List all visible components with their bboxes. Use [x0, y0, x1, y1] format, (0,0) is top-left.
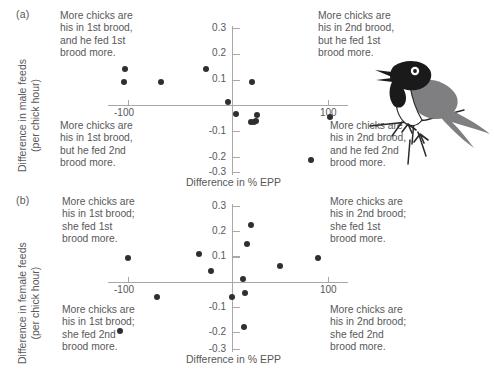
data-point [117, 328, 123, 334]
panel-a-ytick-label-0.1: 0.1 [196, 73, 226, 84]
panel-b-axes [0, 186, 494, 370]
data-point [121, 79, 127, 85]
panel-a-ytick-label-0.3: 0.3 [196, 22, 226, 33]
swallow-eye-pupil [413, 69, 417, 73]
data-point [154, 294, 160, 300]
data-point [315, 255, 321, 261]
data-point [158, 79, 164, 85]
data-point [225, 99, 231, 105]
swallow-beak-lower [376, 78, 393, 82]
panel-b-xtick-label--100: -100 [114, 284, 134, 295]
panel-a-ytick-label-0.2: 0.2 [196, 47, 226, 58]
data-point [240, 276, 246, 282]
barn-swallow-illustration [368, 52, 492, 176]
data-point [254, 112, 260, 118]
panel-b-xtick-label-100: 100 [320, 284, 337, 295]
data-point [327, 114, 333, 120]
swallow-beak-upper [375, 70, 392, 77]
panel-a-xtick-label--100: -100 [114, 107, 134, 118]
data-point [203, 66, 209, 72]
scatter-figure: (a) Difference in male feeds (per chick … [0, 0, 494, 370]
branch-twig-4 [408, 140, 410, 164]
data-point [242, 290, 248, 296]
data-point [196, 251, 202, 257]
data-point [122, 66, 128, 72]
panel-b-ytick-label-0.3: 0.3 [196, 200, 226, 211]
panel-b-ytick-label--0.1: -0.1 [194, 301, 226, 312]
data-point [125, 255, 131, 261]
data-point [244, 241, 250, 247]
data-point [253, 118, 259, 124]
data-point [241, 324, 247, 330]
data-point [233, 111, 239, 117]
data-point [308, 157, 314, 163]
data-point [248, 222, 254, 228]
data-point [229, 294, 235, 300]
panel-b: (b) Difference in female feeds (per chic… [0, 186, 494, 370]
panel-b-x-axis-label: Difference in % EPP [186, 353, 281, 365]
panel-a-ytick-label--0.2: -0.2 [194, 151, 226, 162]
panel-b-ytick-label-0.2: 0.2 [196, 225, 226, 236]
data-point [277, 263, 283, 269]
data-point [208, 268, 214, 274]
data-point [249, 79, 255, 85]
panel-b-ytick-label--0.2: -0.2 [194, 326, 226, 337]
panel-a-ytick-label--0.1: -0.1 [194, 125, 226, 136]
